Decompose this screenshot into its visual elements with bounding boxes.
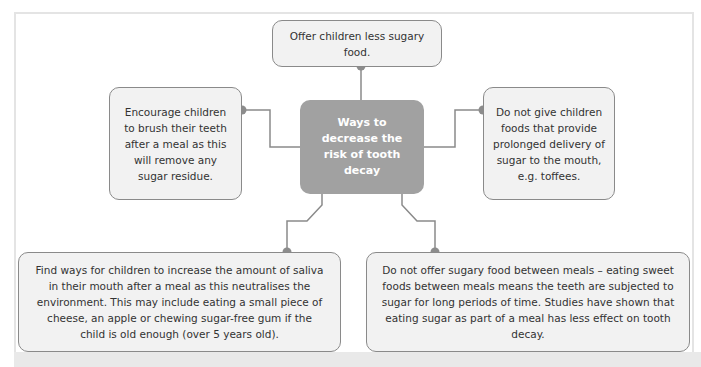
- node-bottom-right: Do not offer sugary food between meals –…: [366, 252, 690, 352]
- node-bottom-right-text: Do not offer sugary food between meals –…: [381, 262, 675, 342]
- node-top-text: Offer children less sugary food.: [281, 28, 433, 60]
- node-right-text: Do not give children foods that provide …: [492, 104, 606, 184]
- node-right: Do not give children foods that provide …: [483, 87, 615, 200]
- center-node-label: Ways to decrease the risk of tooth decay: [310, 115, 414, 179]
- node-bottom-left: Find ways for children to increase the a…: [18, 252, 341, 352]
- node-bottom-left-text: Find ways for children to increase the a…: [33, 262, 326, 342]
- center-node: Ways to decrease the risk of tooth decay: [300, 100, 424, 194]
- node-top: Offer children less sugary food.: [272, 20, 442, 67]
- node-left: Encourage children to brush their teeth …: [109, 87, 242, 200]
- bottom-band: [14, 352, 701, 367]
- node-left-text: Encourage children to brush their teeth …: [118, 104, 233, 184]
